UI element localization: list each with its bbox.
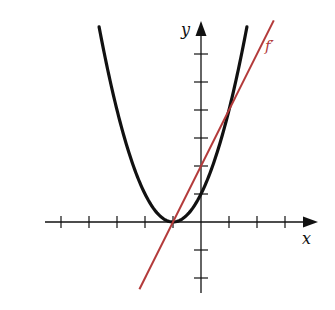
curve-f-prime	[139, 20, 273, 289]
axes	[45, 21, 318, 293]
y-axis-arrow-icon	[196, 21, 207, 36]
chart-canvas: x y f′	[0, 0, 335, 310]
x-axis-arrow-icon	[303, 217, 318, 228]
curve-f	[99, 27, 247, 222]
x-axis-label: x	[302, 229, 311, 248]
y-axis-label: y	[180, 20, 191, 39]
f-prime-label: f′	[264, 37, 275, 55]
